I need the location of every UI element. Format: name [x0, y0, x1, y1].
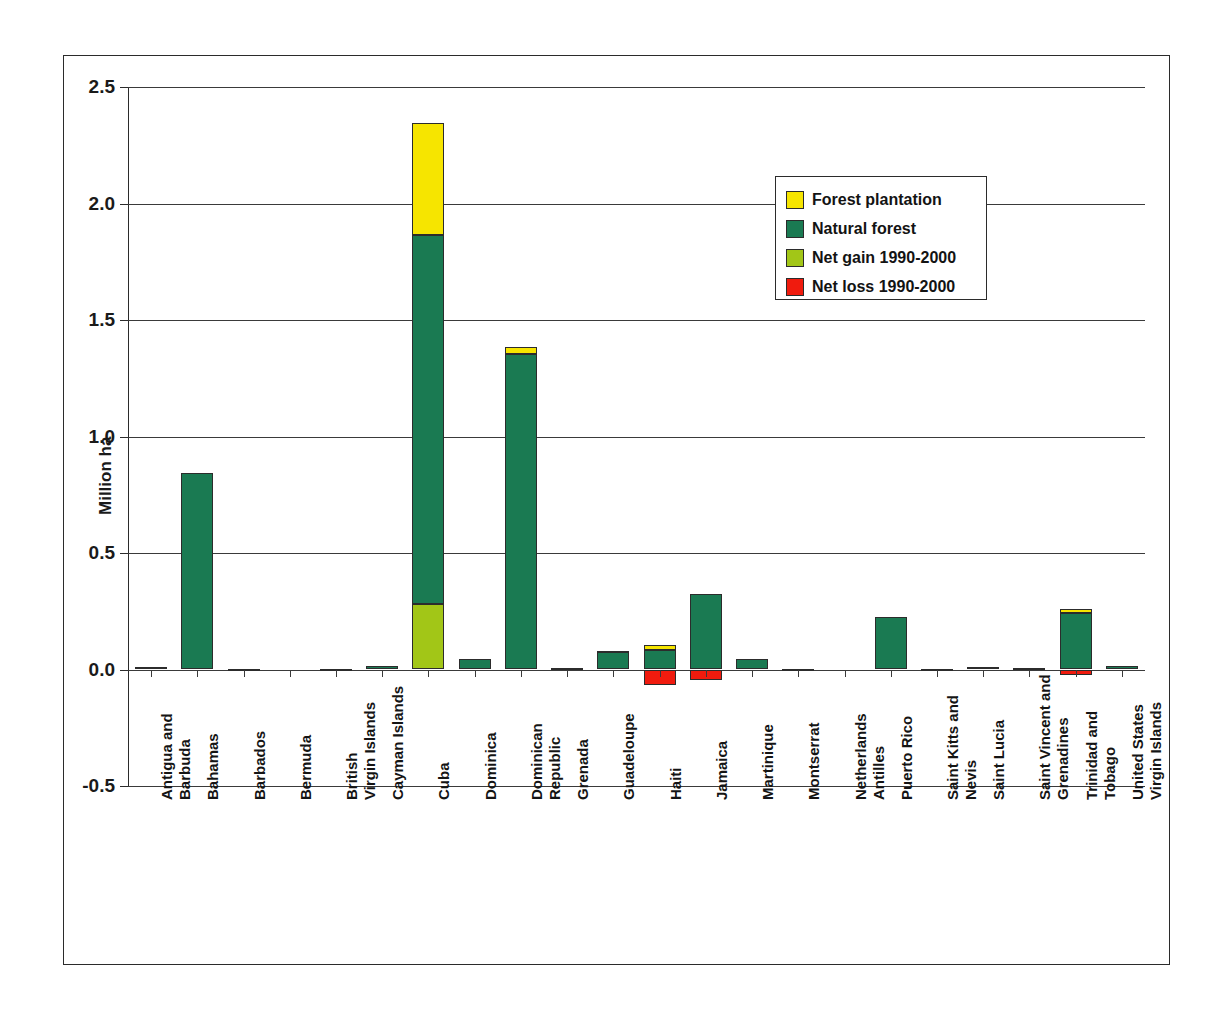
x-axis-label-line: Cayman Islands — [389, 686, 407, 800]
x-axis-label: Antigua andBarbuda — [158, 713, 194, 800]
x-axis-label: Puerto Rico — [898, 716, 916, 800]
x-tick-mark — [1029, 670, 1030, 677]
legend-label: Net loss 1990-2000 — [812, 278, 955, 296]
gridline — [128, 320, 1145, 321]
y-axis-title: Million ha — [96, 437, 116, 515]
x-axis-label: DominicanRepublic — [528, 723, 564, 800]
x-axis-label: Jamaica — [713, 741, 731, 800]
x-axis-label-line: Netherlands — [852, 713, 870, 800]
x-axis-label-line: Virgin Islands — [361, 702, 379, 800]
y-tick-label: 2.5 — [89, 76, 115, 98]
bar-segment-natural-forest — [644, 650, 676, 670]
y-tick-mark — [120, 786, 128, 787]
x-tick-mark — [382, 670, 383, 677]
x-tick-mark — [706, 670, 707, 677]
legend-label: Natural forest — [812, 220, 916, 238]
x-tick-mark — [1076, 670, 1077, 677]
x-axis-label: Cayman Islands — [389, 686, 407, 800]
x-axis-label-line: Martinique — [759, 724, 777, 800]
bar-segment-natural-forest — [505, 354, 537, 669]
legend-swatch-2 — [786, 220, 804, 238]
x-axis-label-line: Dominican — [528, 723, 546, 800]
x-axis-label: Saint Vincent andGrenadines — [1036, 674, 1072, 800]
x-axis-label: Dominica — [482, 732, 500, 800]
x-axis-label-line: British — [343, 702, 361, 800]
bar-segment-forest-plantation — [644, 645, 676, 650]
x-tick-mark — [937, 670, 938, 677]
y-tick-label: 2.0 — [89, 193, 115, 215]
x-axis-label: Saint Lucia — [990, 720, 1008, 800]
x-tick-mark — [428, 670, 429, 677]
y-tick-label: 0.5 — [89, 542, 115, 564]
y-tick-mark — [120, 670, 128, 671]
legend-item: Forest plantation — [786, 185, 986, 214]
x-axis-label-line: Grenadines — [1054, 674, 1072, 800]
x-axis-label: Trinidad andTobago — [1083, 711, 1119, 800]
x-axis-label: Martinique — [759, 724, 777, 800]
x-tick-mark — [752, 670, 753, 677]
x-tick-mark — [521, 670, 522, 677]
x-axis-label-line: Saint Lucia — [990, 720, 1008, 800]
bar-segment-forest-plantation — [597, 651, 629, 653]
x-axis-label: Bermuda — [297, 735, 315, 800]
x-axis-label-line: Virgin Islands — [1147, 702, 1165, 800]
legend-swatch-4 — [786, 278, 804, 296]
y-tick-mark — [120, 204, 128, 205]
gridline — [128, 553, 1145, 554]
gridline — [128, 204, 1145, 205]
x-axis-label: Montserrat — [805, 722, 823, 800]
gridline — [128, 87, 1145, 88]
x-axis-label-line: Haiti — [667, 767, 685, 800]
bar-segment-forest-plantation — [412, 123, 444, 235]
x-axis-label-line: Jamaica — [713, 741, 731, 800]
x-axis-label-line: Trinidad and — [1083, 711, 1101, 800]
bar-segment-natural-forest — [459, 659, 491, 670]
x-axis-label: Guadeloupe — [620, 713, 638, 800]
x-tick-mark — [336, 670, 337, 677]
x-axis-label-line: Montserrat — [805, 722, 823, 800]
x-tick-mark — [290, 670, 291, 677]
y-tick-mark — [120, 320, 128, 321]
x-tick-mark — [891, 670, 892, 677]
x-axis-label-line: Grenada — [574, 739, 592, 800]
x-axis-label: Saint Kitts andNevis — [944, 695, 980, 800]
y-tick-label: 1.0 — [89, 426, 115, 448]
x-tick-mark — [660, 670, 661, 677]
x-axis-label-line: Puerto Rico — [898, 716, 916, 800]
bar-segment-natural-forest — [181, 473, 213, 669]
x-axis-label: Barbados — [251, 731, 269, 800]
x-axis-label: Cuba — [435, 763, 453, 801]
x-tick-mark — [475, 670, 476, 677]
x-axis-label: Bahamas — [204, 733, 222, 800]
legend-label: Net gain 1990-2000 — [812, 249, 956, 267]
x-axis-label-line: Barbados — [251, 731, 269, 800]
y-tick-mark — [120, 553, 128, 554]
y-tick-label: -0.5 — [82, 775, 115, 797]
bar-segment-natural-forest — [875, 617, 907, 670]
x-axis-label-line: Republic — [546, 723, 564, 800]
y-tick-label: 1.5 — [89, 309, 115, 331]
bar-segment-natural-forest — [597, 652, 629, 669]
y-tick-label: 0.0 — [89, 659, 115, 681]
legend-label: Forest plantation — [812, 191, 942, 209]
x-axis-label-line: Nevis — [962, 695, 980, 800]
bar-segment-natural-forest — [736, 659, 768, 670]
x-tick-mark — [151, 670, 152, 677]
x-axis-label: BritishVirgin Islands — [343, 702, 379, 800]
legend-swatch-1 — [786, 191, 804, 209]
y-tick-mark — [120, 87, 128, 88]
x-axis-label-line: Guadeloupe — [620, 713, 638, 800]
x-axis-label-line: Antigua and — [158, 713, 176, 800]
x-axis-label-line: Saint Vincent and — [1036, 674, 1054, 800]
x-axis-label-line: Bahamas — [204, 733, 222, 800]
x-axis-label: NetherlandsAntilles — [852, 713, 888, 800]
x-axis-label-line: Dominica — [482, 732, 500, 800]
x-tick-mark — [845, 670, 846, 677]
x-axis-label-line: United States — [1129, 702, 1147, 800]
x-tick-mark — [1122, 670, 1123, 677]
x-axis-label-line: Cuba — [435, 763, 453, 801]
x-axis-label-line: Antilles — [870, 713, 888, 800]
chart-legend: Forest plantationNatural forestNet gain … — [775, 176, 987, 300]
x-axis-label-line: Tobago — [1101, 711, 1119, 800]
bar-segment-net-gain — [412, 604, 444, 669]
